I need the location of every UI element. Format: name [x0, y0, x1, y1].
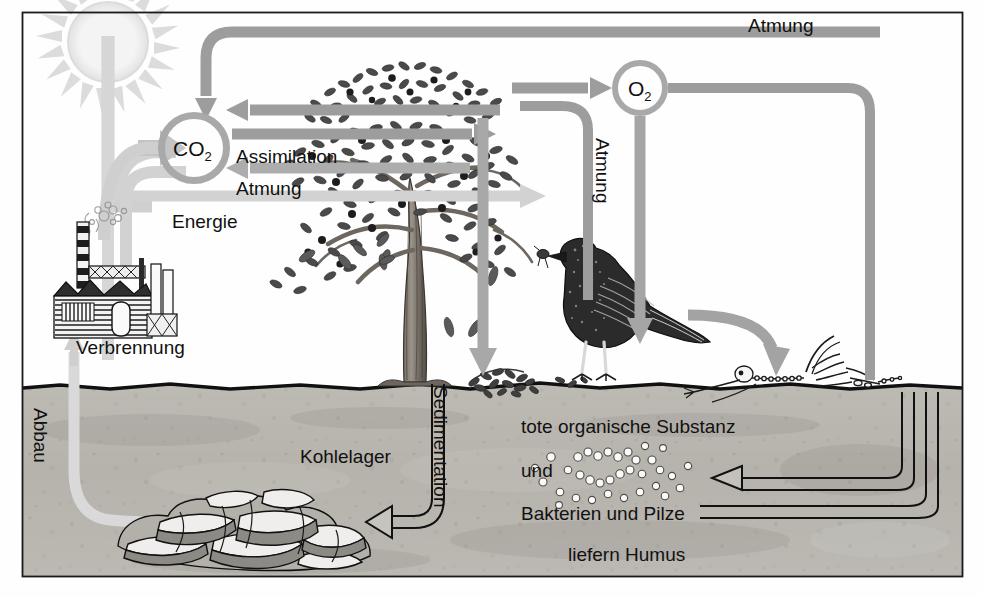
label-energie: Energie — [172, 212, 238, 231]
label-assimilation: Assimilation — [236, 147, 337, 166]
label-atmung-animal: Atmung — [593, 138, 612, 203]
label-atmung-plant: Atmung — [236, 179, 301, 198]
label-tote-substanz: tote organische Substanz — [521, 417, 735, 436]
label-verbrennung: Verbrennung — [76, 338, 185, 357]
label-bakterien-pilze: Bakterien und Pilze — [521, 504, 685, 523]
carbon-cycle-illustration — [0, 0, 982, 597]
diagram-canvas: Atmung Assimilation Atmung Energie Atmun… — [0, 0, 982, 597]
o2-pool-ring — [612, 60, 668, 116]
label-atmung-top: Atmung — [748, 16, 813, 35]
co2-pool-ring — [158, 112, 230, 184]
label-sedimentation: Sedimentation — [431, 386, 450, 507]
label-kohlelager: Kohlelager — [300, 447, 391, 466]
label-und: und — [521, 461, 553, 480]
label-abbau: Abbau — [31, 408, 50, 463]
label-liefern-humus: liefern Humus — [568, 545, 685, 564]
